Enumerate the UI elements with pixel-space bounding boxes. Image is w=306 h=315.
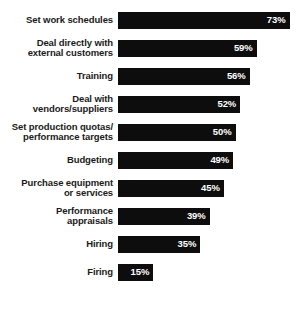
bar-row: Set work schedules 73% — [0, 8, 306, 32]
category-label: Deal with vendors/suppliers — [0, 94, 118, 115]
bar-row: Performance appraisals 39% — [0, 204, 306, 228]
bar-value-label: 59% — [234, 43, 253, 53]
bar-fill: 49% — [118, 152, 233, 169]
bar-row: Deal with vendors/suppliers 52% — [0, 92, 306, 116]
bar-track: 35% — [118, 236, 306, 253]
bar-value-label: 49% — [210, 155, 229, 165]
bar-row: Set production quotas/ performance targe… — [0, 120, 306, 144]
category-label: Hiring — [0, 239, 118, 250]
category-label: Firing — [0, 267, 118, 278]
bar-row: Firing 15% — [0, 260, 306, 284]
bar-value-label: 56% — [227, 71, 246, 81]
bar-value-label: 45% — [201, 183, 220, 193]
bar-value-label: 73% — [267, 15, 286, 25]
bar-value-label: 15% — [131, 267, 150, 277]
bar-value-label: 39% — [187, 211, 206, 221]
bar-fill: 39% — [118, 208, 210, 225]
horizontal-bar-chart: Set work schedules 73% Deal directly wit… — [0, 0, 306, 315]
bar-row: Budgeting 49% — [0, 148, 306, 172]
bar-track: 49% — [118, 152, 306, 169]
bar-fill: 73% — [118, 12, 290, 29]
bar-fill: 59% — [118, 40, 257, 57]
bar-row: Deal directly with external customers 59… — [0, 36, 306, 60]
category-label: Purchase equipment or services — [0, 178, 118, 199]
bar-row: Hiring 35% — [0, 232, 306, 256]
bar-track: 15% — [118, 264, 306, 281]
bar-value-label: 52% — [217, 99, 236, 109]
category-label: Training — [0, 71, 118, 82]
bar-fill: 15% — [118, 264, 153, 281]
category-label: Set work schedules — [0, 15, 118, 26]
bar-track: 45% — [118, 180, 306, 197]
bar-track: 73% — [118, 12, 306, 29]
category-label: Set production quotas/ performance targe… — [0, 122, 118, 143]
bar-fill: 50% — [118, 124, 236, 141]
bar-track: 39% — [118, 208, 306, 225]
bar-value-label: 35% — [178, 239, 197, 249]
bar-fill: 56% — [118, 68, 250, 85]
bar-track: 59% — [118, 40, 306, 57]
bar-fill: 52% — [118, 96, 240, 113]
bar-track: 50% — [118, 124, 306, 141]
bar-fill: 35% — [118, 236, 200, 253]
category-label: Budgeting — [0, 155, 118, 166]
category-label: Deal directly with external customers — [0, 38, 118, 59]
bar-fill: 45% — [118, 180, 224, 197]
category-label: Performance appraisals — [0, 206, 118, 227]
bar-row: Training 56% — [0, 64, 306, 88]
bar-track: 56% — [118, 68, 306, 85]
bar-track: 52% — [118, 96, 306, 113]
bar-row: Purchase equipment or services 45% — [0, 176, 306, 200]
bar-value-label: 50% — [213, 127, 232, 137]
